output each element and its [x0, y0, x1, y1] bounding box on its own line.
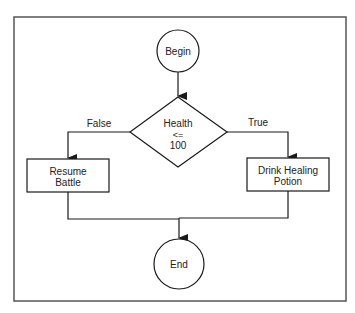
- resume-line2: Battle: [55, 177, 81, 188]
- drink-potion-node: Drink Healing Potion: [247, 158, 329, 191]
- decision-line2: <=: [173, 130, 184, 140]
- drink-line1: Drink Healing: [258, 165, 318, 176]
- edge-true: [227, 132, 288, 157]
- end-label: End: [170, 259, 188, 270]
- flowchart-canvas: Begin Health <= 100 False True Resume Ba…: [0, 0, 355, 313]
- decision-line1: Health: [164, 118, 193, 129]
- end-node: End: [154, 239, 204, 289]
- false-label: False: [87, 118, 112, 129]
- edge-drink-merge: [179, 191, 288, 218]
- resume-battle-node: Resume Battle: [27, 159, 109, 192]
- decision-line3: 100: [170, 140, 187, 151]
- edge-resume-merge: [68, 192, 179, 219]
- begin-label: Begin: [165, 46, 191, 57]
- begin-node: Begin: [157, 30, 199, 72]
- edge-false: [68, 132, 130, 158]
- drink-line2: Potion: [274, 176, 302, 187]
- true-label: True: [248, 117, 269, 128]
- resume-line1: Resume: [49, 166, 87, 177]
- decision-node: Health <= 100: [130, 97, 227, 167]
